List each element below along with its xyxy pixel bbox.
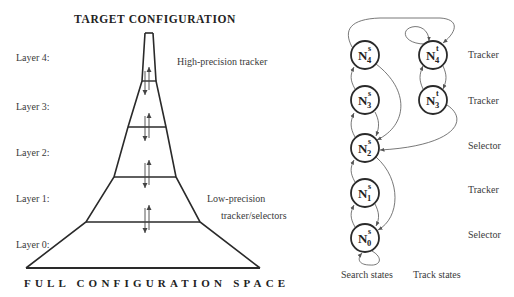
diagram-canvas: TARGET CONFIGURATION Layer 4: La	[0, 0, 514, 297]
low-precision-annotation-line1: Low-precision	[207, 193, 265, 204]
edge-n3s-n2s	[375, 112, 379, 136]
edge-n0s-n1s	[351, 205, 355, 227]
target-configuration-title: TARGET CONFIGURATION	[74, 13, 236, 25]
node-n0-search: N s 0	[351, 224, 379, 252]
svg-text:s: s	[368, 89, 371, 98]
node-n1-search: N s 1	[351, 179, 379, 207]
svg-text:3: 3	[367, 100, 371, 110]
role-label-layer4: Tracker	[468, 49, 499, 60]
edge-n0s-self	[359, 251, 379, 265]
transition-arrows-2-1	[145, 160, 149, 188]
edge-n2s-n3s	[351, 113, 355, 137]
edge-n1s-n2s	[351, 160, 355, 182]
layer-4-label: Layer 4:	[16, 52, 50, 63]
node-n4-search: N s 4	[351, 41, 379, 69]
role-label-layer3: Tracker	[468, 95, 499, 106]
tower-right-edge	[153, 33, 260, 268]
edge-n4t-n3t	[443, 66, 446, 89]
edge-n4t-self	[405, 27, 429, 44]
transition-arrows-1-0	[145, 205, 149, 233]
svg-text:t: t	[436, 89, 439, 98]
svg-text:s: s	[368, 44, 371, 53]
node-n4-track: N t 4	[419, 41, 447, 69]
svg-text:3: 3	[435, 100, 439, 110]
track-states-label: Track states	[413, 269, 461, 280]
svg-text:0: 0	[367, 238, 371, 248]
svg-text:s: s	[368, 137, 371, 146]
low-precision-annotation-line2: tracker/selectors	[221, 210, 287, 221]
edge-n3s-n4s	[351, 67, 355, 89]
edge-n3t-n2s	[380, 105, 457, 150]
layer-0-label: Layer 0:	[16, 239, 50, 250]
svg-text:s: s	[368, 227, 371, 236]
svg-text:s: s	[368, 182, 371, 191]
configuration-hierarchy: TARGET CONFIGURATION Layer 4: La	[16, 13, 289, 289]
role-label-layer0: Selector	[468, 229, 501, 240]
role-label-layer1: Tracker	[468, 184, 499, 195]
search-states-label: Search states	[341, 269, 393, 280]
node-n3-search: N s 3	[351, 86, 379, 114]
layer-2-label: Layer 2:	[16, 147, 50, 158]
layer-1-label: Layer 1:	[16, 193, 50, 204]
edge-n3t-n4t	[420, 66, 423, 89]
role-label-layer2: Selector	[468, 140, 501, 151]
svg-text:2: 2	[367, 148, 371, 158]
full-configuration-space-title: FULL CONFIGURATION SPACE	[24, 277, 289, 289]
node-n2-search: N s 2	[351, 134, 379, 162]
svg-text:t: t	[436, 44, 439, 53]
layer-3-label: Layer 3:	[16, 101, 50, 112]
state-machine: N s 4 N s 3 N s 2 N s 1 N s 0	[341, 18, 501, 280]
node-n3-track: N t 3	[419, 86, 447, 114]
high-precision-annotation: High-precision tracker	[177, 56, 268, 67]
svg-text:1: 1	[367, 193, 371, 203]
edge-n1s-n0s	[375, 204, 379, 226]
